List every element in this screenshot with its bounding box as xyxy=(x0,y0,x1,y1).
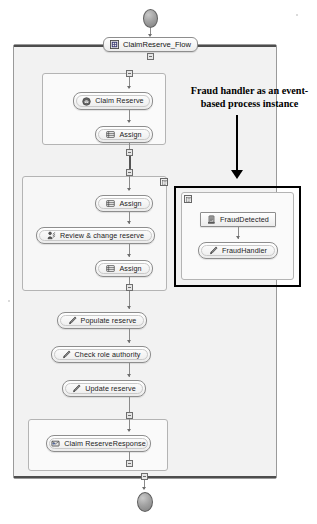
arrowhead-check-role-authority xyxy=(127,340,131,343)
human-task-icon xyxy=(47,231,56,240)
bpmn-diagram-canvas: ClaimReserve_Flow Claim Reserve Assign xyxy=(0,0,317,524)
signal-event-icon xyxy=(207,215,216,224)
flow-title-node[interactable]: ClaimReserve_Flow xyxy=(103,37,198,52)
start-event[interactable] xyxy=(143,9,158,28)
task-populate-reserve-label: Populate reserve xyxy=(81,317,137,324)
task-claim-reserve-response[interactable]: Claim ReserveResponse xyxy=(46,435,151,452)
arrowhead-assign1 xyxy=(127,120,131,123)
task-assign-3-label: Assign xyxy=(119,265,141,272)
connector-update-to-response-group xyxy=(129,397,130,413)
annotation-line-1: Fraud handler as an event- xyxy=(184,85,315,98)
task-claim-reserve[interactable]: Claim Reserve xyxy=(73,92,153,110)
task-assign-1[interactable]: Assign xyxy=(95,126,153,143)
task-review-change-reserve-label: Review & change reserve xyxy=(60,232,144,239)
task-check-role-authority-label: Check role authority xyxy=(75,351,141,358)
response-group-exit-marker xyxy=(126,460,133,467)
scan-artifact xyxy=(8,300,10,302)
task-fraud-handler-label: FraudHandler xyxy=(222,247,267,254)
reply-message-icon xyxy=(51,439,60,448)
task-assign-2[interactable]: Assign xyxy=(95,195,153,212)
scan-artifact xyxy=(296,14,298,16)
task-assign-3[interactable]: Assign xyxy=(95,260,153,277)
task-fraud-handler[interactable]: FraudHandler xyxy=(198,242,278,259)
review-group-exit-marker xyxy=(126,284,133,291)
task-assign-2-label: Assign xyxy=(119,200,141,207)
node-fraud-detected[interactable]: FraudDetected xyxy=(200,212,276,227)
review-group-entry-marker xyxy=(126,169,133,176)
pool-exit-marker xyxy=(141,473,148,480)
task-review-change-reserve[interactable]: Review & change reserve xyxy=(36,227,155,244)
annotation-arrow-stem xyxy=(236,115,238,172)
review-group-badge xyxy=(160,178,168,186)
task-check-role-authority[interactable]: Check role authority xyxy=(51,346,151,363)
arrowhead-end-event xyxy=(142,487,146,490)
assign-task-icon xyxy=(106,199,115,208)
connector-group1-to-group2 xyxy=(129,156,131,170)
task-assign-1-label: Assign xyxy=(119,131,141,138)
fraud-group-badge xyxy=(184,195,192,203)
task-populate-reserve[interactable]: Populate reserve xyxy=(57,312,147,329)
arrowhead-review xyxy=(127,221,131,224)
arrowhead-assign2 xyxy=(127,188,131,191)
process-flow-icon xyxy=(110,40,119,49)
annotation-text: Fraud handler as an event- based process… xyxy=(184,85,315,110)
end-event[interactable] xyxy=(137,492,153,512)
flow-title-marker xyxy=(147,53,154,60)
flow-title-label: ClaimReserve_Flow xyxy=(123,40,191,49)
arrowhead-claim-reserve-response xyxy=(127,429,131,432)
task-update-reserve-label: Update reserve xyxy=(85,385,136,392)
script-task-icon xyxy=(209,246,218,255)
task-update-reserve[interactable]: Update reserve xyxy=(62,380,146,397)
receive-group-exit-marker xyxy=(126,149,133,156)
script-task-icon xyxy=(68,316,77,325)
receive-group-entry-marker xyxy=(126,70,133,77)
node-fraud-detected-label: FraudDetected xyxy=(220,216,269,223)
arrowhead-fraud-handler xyxy=(236,236,240,239)
receive-message-icon xyxy=(82,97,91,106)
script-task-icon xyxy=(72,384,81,393)
script-task-icon xyxy=(62,350,71,359)
assign-task-icon xyxy=(106,130,115,139)
annotation-line-2: based process instance xyxy=(184,98,315,111)
annotation-arrow-head xyxy=(231,170,243,179)
task-claim-reserve-label: Claim Reserve xyxy=(95,97,143,104)
arrowhead-populate-reserve xyxy=(127,306,131,309)
response-group-entry-marker xyxy=(126,412,133,419)
arrowhead-assign3 xyxy=(127,254,131,257)
arrowhead-update-reserve xyxy=(127,374,131,377)
task-claim-reserve-response-label: Claim ReserveResponse xyxy=(64,440,146,447)
assign-task-icon xyxy=(106,264,115,273)
arrowhead-claim-reserve xyxy=(127,86,131,89)
